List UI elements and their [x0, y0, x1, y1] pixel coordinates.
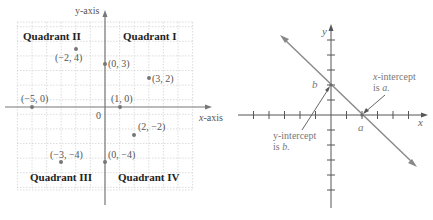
y-intercept-callout-line	[302, 88, 329, 130]
x-axis-arrow-icon	[205, 105, 212, 110]
x-axis-label: x-axis	[198, 112, 223, 123]
x-axis-label: x	[417, 116, 423, 128]
left-coordinate-plane: y-axis x-axis 0 Quadrant II Quadrant I Q…	[5, 5, 223, 205]
point-0-neg4	[103, 160, 107, 164]
point-neg5-0	[30, 105, 34, 109]
y-axis-label: y-axis	[75, 5, 100, 16]
point-3-2	[147, 76, 151, 80]
point-label: (−5, 0)	[21, 93, 48, 105]
b-label: b	[312, 78, 318, 90]
coordinate-figures: y-axis x-axis 0 Quadrant II Quadrant I Q…	[0, 0, 433, 220]
quadrant-4-label: Quadrant IV	[118, 171, 179, 183]
quadrant-3-label: Quadrant III	[30, 171, 92, 183]
point-0-3	[103, 62, 107, 66]
a-label: a	[358, 121, 364, 133]
point-neg3-neg4	[59, 160, 63, 164]
point-label: (−2, 4)	[55, 52, 82, 64]
y-axis-arrow-icon	[329, 24, 334, 31]
y-axis-label: y	[321, 25, 327, 37]
graph-line	[284, 39, 413, 163]
y-axis-arrow-icon	[103, 10, 108, 17]
point-label: (2, −2)	[138, 121, 165, 133]
origin-label: 0	[96, 110, 101, 121]
point-1-0	[118, 105, 122, 109]
callout-arrow-icon	[325, 86, 330, 92]
x-intercept-callout-line1: x-intercept	[372, 71, 416, 82]
y-intercept-callout-line2: is b.	[273, 141, 290, 152]
y-intercept-callout-line1: y-intercept	[273, 130, 317, 141]
point-label: (0, 3)	[108, 58, 130, 70]
point-neg2-4	[74, 47, 78, 51]
x-intercept-callout-line2: is a.	[373, 82, 390, 93]
point-label: (0, −4)	[108, 149, 135, 161]
point-label: (−3, −4)	[50, 149, 83, 161]
point-2-neg2	[132, 133, 136, 137]
quadrant-1-label: Quadrant I	[123, 30, 177, 42]
point-label: (3, 2)	[152, 73, 174, 85]
point-label: (1, 0)	[111, 93, 133, 105]
quadrant-2-label: Quadrant II	[23, 30, 81, 42]
right-intercept-diagram: y x b a x-intercept is a. y-intercept is…	[238, 24, 428, 208]
